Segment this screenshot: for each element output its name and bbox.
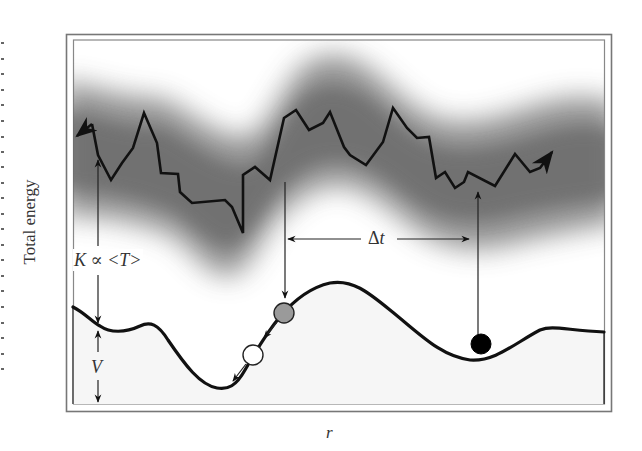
proportional-symbol: ∝ xyxy=(91,250,103,270)
diagram-canvas xyxy=(0,0,642,451)
t-symbol: t xyxy=(380,228,385,248)
black-ball xyxy=(471,334,491,354)
white-ball xyxy=(243,345,263,365)
temperature-symbol: <T> xyxy=(107,250,141,270)
potential-energy-label: V xyxy=(91,357,102,378)
energy-diagram: Total energy r K ∝ <T> V Δt xyxy=(0,0,642,451)
x-axis-label: r xyxy=(326,423,333,443)
k-symbol: K xyxy=(74,250,86,270)
grey-ball xyxy=(274,303,294,323)
delta-symbol: Δ xyxy=(368,228,380,248)
kinetic-energy-label: K ∝ <T> xyxy=(73,249,143,271)
y-axis-label: Total energy xyxy=(20,180,40,265)
time-interval-label: Δt xyxy=(368,228,385,249)
